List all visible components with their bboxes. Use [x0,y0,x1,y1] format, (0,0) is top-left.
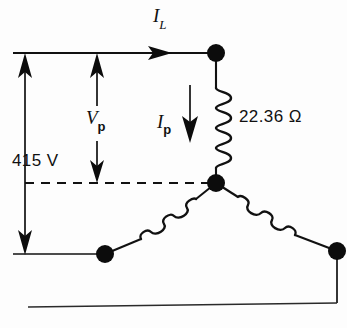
third-line-group [28,251,337,307]
label-impedance: 22.36 Ω [239,107,302,126]
bottom-baseline-wire [28,303,337,307]
node-line-bottom-left [96,245,114,263]
label-phase-current: Ip [156,111,171,137]
phase-b-branch-group [105,183,216,254]
node-star-point [207,174,225,192]
top-supply-line-group [13,46,216,60]
label-line-voltage: 415 V [12,151,59,170]
node-line-top [207,44,225,62]
label-phase-voltage: Vp [86,107,106,134]
arrow-phase-current [182,85,198,143]
phase-a-branch-group [216,53,231,183]
phase-c-branch-group [216,183,337,251]
coil-phase-c-icon [238,196,296,235]
coil-phase-b-icon [140,199,196,239]
node-line-bottom-right [328,242,346,260]
coil-phase-a-icon [216,88,231,168]
circuit-diagram-figure: IL Ip Vp 415 V 22.36 Ω [0,0,347,328]
circuit-canvas: IL Ip Vp 415 V 22.36 Ω [0,0,347,328]
label-line-current: IL [152,5,167,32]
